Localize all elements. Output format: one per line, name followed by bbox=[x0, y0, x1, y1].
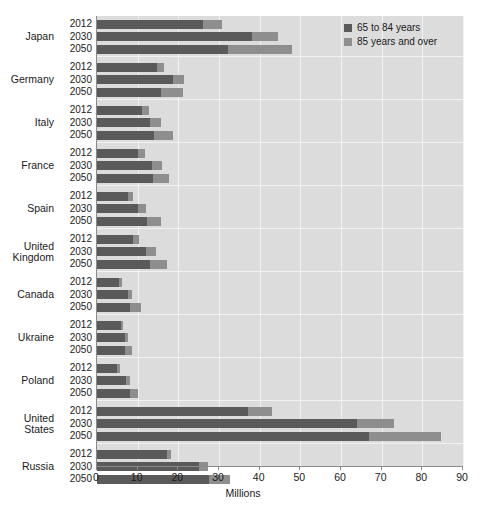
country-label: Russia bbox=[0, 461, 54, 472]
bar-segment-65-84 bbox=[97, 88, 161, 97]
bar-segment-65-84 bbox=[97, 131, 154, 140]
bar-segment-85-over bbox=[248, 407, 272, 416]
bar-segment-65-84 bbox=[97, 63, 157, 72]
bar-segment-65-84 bbox=[97, 32, 252, 41]
bar-segment-85-over bbox=[167, 450, 171, 459]
bar-segment-65-84 bbox=[97, 161, 152, 170]
country-label: Canada bbox=[0, 289, 54, 300]
year-label-2030: 2030 bbox=[62, 204, 92, 214]
bar-segment-85-over bbox=[138, 204, 145, 213]
group-separator bbox=[97, 99, 463, 100]
x-tick-label-90: 90 bbox=[447, 471, 477, 483]
bar-segment-85-over bbox=[128, 192, 133, 201]
bar-segment-65-84 bbox=[97, 204, 138, 213]
country-label: United States bbox=[0, 413, 54, 435]
year-label-2030: 2030 bbox=[62, 290, 92, 300]
bar-segment-85-over bbox=[157, 63, 164, 72]
gridline bbox=[463, 16, 464, 466]
year-label-2012: 2012 bbox=[62, 406, 92, 416]
bar-segment-85-over bbox=[161, 88, 183, 97]
bar-segment-65-84 bbox=[97, 450, 167, 459]
year-label-2050: 2050 bbox=[62, 173, 92, 183]
year-label-2050: 2050 bbox=[62, 431, 92, 441]
legend: 65 to 84 years85 years and over bbox=[344, 22, 437, 50]
x-tick-label-50: 50 bbox=[284, 471, 314, 483]
legend-label: 85 years and over bbox=[357, 36, 437, 47]
country-label: France bbox=[0, 160, 54, 171]
bar-segment-65-84 bbox=[97, 407, 248, 416]
bar-segment-85-over bbox=[126, 376, 130, 385]
y-axis-labels: JapanGermanyItalyFranceSpainUnited Kingd… bbox=[0, 16, 92, 466]
x-tick-label-30: 30 bbox=[203, 471, 233, 483]
x-tick-mark bbox=[421, 466, 422, 470]
year-label-2050: 2050 bbox=[62, 44, 92, 54]
bar-segment-85-over bbox=[119, 278, 122, 287]
bar-segment-65-84 bbox=[97, 192, 128, 201]
bar-segment-85-over bbox=[203, 20, 222, 29]
group-separator bbox=[97, 357, 463, 358]
stacked-bar-chart: JapanGermanyItalyFranceSpainUnited Kingd… bbox=[0, 0, 486, 510]
x-tick-label-10: 10 bbox=[122, 471, 152, 483]
bar-segment-85-over bbox=[153, 174, 169, 183]
x-tick-mark bbox=[462, 466, 463, 470]
x-tick-label-80: 80 bbox=[406, 471, 436, 483]
year-label-2012: 2012 bbox=[62, 320, 92, 330]
x-tick-mark bbox=[381, 466, 382, 470]
year-label-2050: 2050 bbox=[62, 130, 92, 140]
x-axis-line bbox=[96, 466, 463, 467]
bar-segment-85-over bbox=[152, 161, 162, 170]
group-separator bbox=[97, 56, 463, 57]
year-label-2050: 2050 bbox=[62, 302, 92, 312]
bar-segment-65-84 bbox=[97, 321, 121, 330]
bar-segment-85-over bbox=[125, 333, 128, 342]
bar-segment-85-over bbox=[130, 389, 139, 398]
gridline bbox=[422, 16, 423, 466]
bar-segment-65-84 bbox=[97, 247, 146, 256]
bar-segment-65-84 bbox=[97, 290, 128, 299]
x-tick-label-60: 60 bbox=[325, 471, 355, 483]
bar-segment-85-over bbox=[252, 32, 278, 41]
bar-segment-65-84 bbox=[97, 364, 117, 373]
group-separator bbox=[97, 228, 463, 229]
gridline bbox=[382, 16, 383, 466]
bar-segment-85-over bbox=[146, 247, 155, 256]
group-separator bbox=[97, 314, 463, 315]
year-label-2030: 2030 bbox=[62, 118, 92, 128]
bar-segment-65-84 bbox=[97, 75, 173, 84]
bar-segment-65-84 bbox=[97, 389, 130, 398]
year-label-2030: 2030 bbox=[62, 75, 92, 85]
group-separator bbox=[97, 443, 463, 444]
bar-segment-65-84 bbox=[97, 149, 138, 158]
group-separator bbox=[97, 400, 463, 401]
bar-segment-85-over bbox=[369, 432, 440, 441]
group-separator bbox=[97, 271, 463, 272]
x-axis-title: Millions bbox=[0, 487, 486, 499]
bar-segment-65-84 bbox=[97, 475, 209, 484]
year-label-2012: 2012 bbox=[62, 105, 92, 115]
bar-segment-85-over bbox=[173, 75, 184, 84]
x-tick-mark bbox=[96, 466, 97, 470]
year-label-2012: 2012 bbox=[62, 62, 92, 72]
year-label-2050: 2050 bbox=[62, 87, 92, 97]
bar-segment-65-84 bbox=[97, 432, 369, 441]
legend-label: 65 to 84 years bbox=[357, 22, 420, 33]
bar-segment-85-over bbox=[121, 321, 123, 330]
x-tick-mark bbox=[177, 466, 178, 470]
year-label-2012: 2012 bbox=[62, 449, 92, 459]
year-label-2050: 2050 bbox=[62, 388, 92, 398]
country-label: Ukraine bbox=[0, 332, 54, 343]
year-label-2030: 2030 bbox=[62, 247, 92, 257]
year-label-2030: 2030 bbox=[62, 419, 92, 429]
bar-segment-65-84 bbox=[97, 419, 357, 428]
gridline bbox=[300, 16, 301, 466]
gridline bbox=[341, 16, 342, 466]
bar-segment-65-84 bbox=[97, 235, 133, 244]
year-label-2050: 2050 bbox=[62, 259, 92, 269]
bar-segment-65-84 bbox=[97, 20, 203, 29]
bar-segment-65-84 bbox=[97, 174, 153, 183]
group-separator bbox=[97, 185, 463, 186]
year-label-2050: 2050 bbox=[62, 216, 92, 226]
bar-segment-65-84 bbox=[97, 376, 126, 385]
x-tick-mark bbox=[259, 466, 260, 470]
bar-segment-85-over bbox=[128, 290, 132, 299]
